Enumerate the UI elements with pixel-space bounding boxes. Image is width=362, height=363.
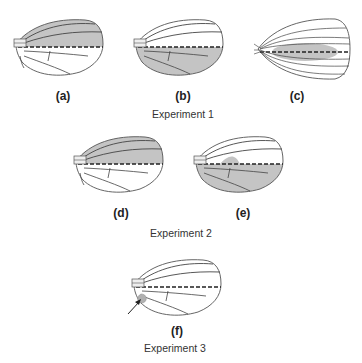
experiment-caption-2: Experiment 2 bbox=[150, 227, 212, 239]
panel-label-f: (f) bbox=[171, 324, 183, 338]
experiment-caption-1: Experiment 1 bbox=[152, 108, 214, 120]
wing-c bbox=[250, 16, 354, 84]
panel-label-b: (b) bbox=[175, 89, 190, 103]
panel-label-a: (a) bbox=[56, 89, 71, 103]
wing-b bbox=[130, 16, 230, 82]
arrow-icon bbox=[125, 295, 145, 317]
wing-e bbox=[190, 133, 290, 199]
panel-label-c: (c) bbox=[290, 89, 305, 103]
panel-label-e: (e) bbox=[236, 206, 251, 220]
wing-d bbox=[70, 133, 170, 199]
panel-label-d: (d) bbox=[113, 206, 128, 220]
experiment-caption-3: Experiment 3 bbox=[144, 342, 206, 354]
wing-a bbox=[10, 16, 110, 82]
